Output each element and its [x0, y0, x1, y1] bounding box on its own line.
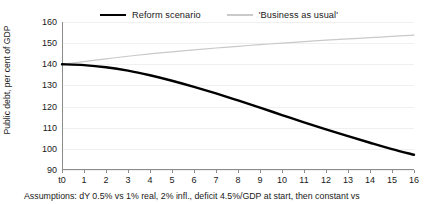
x-axis-tick-label: 14 — [365, 175, 375, 185]
y-axis-tick-label: 150 — [42, 38, 57, 48]
y-axis-title: Public debt, per cent of GDP — [2, 0, 16, 160]
x-axis-tick-label: 3 — [125, 175, 130, 185]
x-axis-tick-mark — [326, 170, 327, 173]
plot-area: 90100110120130140150160 t012345678910111… — [62, 22, 414, 170]
x-axis-tick-label: 9 — [257, 175, 262, 185]
y-axis-tick-label: 110 — [43, 123, 57, 133]
chart-footnote: Assumptions: dY 0.5% vs 1% real, 2% infl… — [24, 191, 360, 201]
series-line-business-as-usual — [62, 35, 414, 64]
x-axis-tick-mark — [348, 170, 349, 173]
legend-label-business-as-usual: 'Business as usual' — [259, 10, 338, 20]
x-axis-tick-label: t0 — [58, 175, 66, 185]
x-axis-tick-mark — [216, 170, 217, 173]
x-axis-tick-label: 11 — [299, 175, 308, 185]
x-axis-tick-mark — [194, 170, 195, 173]
legend-swatch-business-as-usual — [227, 14, 253, 15]
x-axis-tick-label: 1 — [81, 175, 86, 185]
x-axis-tick-label: 7 — [213, 175, 218, 185]
x-axis-tick-mark — [392, 170, 393, 173]
legend-item-business-as-usual: 'Business as usual' — [227, 10, 338, 20]
legend-swatch-reform-scenario — [100, 14, 126, 16]
x-axis-tick-mark — [414, 170, 415, 173]
y-axis-tick-label: 90 — [47, 165, 57, 175]
x-axis-tick-label: 12 — [321, 175, 331, 185]
x-axis-tick-label: 5 — [169, 175, 174, 185]
legend-item-reform-scenario: Reform scenario — [100, 10, 201, 20]
x-axis-tick-label: 2 — [103, 175, 108, 185]
series-layer — [62, 22, 414, 170]
x-axis-tick-mark — [128, 170, 129, 173]
series-line-reform-scenario — [62, 64, 414, 154]
x-axis-tick-label: 13 — [343, 175, 353, 185]
x-axis-tick-label: 4 — [147, 175, 152, 185]
chart-container: Reform scenario 'Business as usual' Publ… — [0, 0, 438, 204]
y-axis-tick-label: 100 — [42, 144, 57, 154]
x-axis-tick-mark — [370, 170, 371, 173]
y-axis-tick-label: 140 — [42, 59, 57, 69]
x-axis-tick-mark — [84, 170, 85, 173]
y-axis-tick-label: 130 — [42, 80, 57, 90]
x-axis-tick-mark — [150, 170, 151, 173]
x-axis-tick-label: 6 — [191, 175, 196, 185]
x-axis-tick-mark — [282, 170, 283, 173]
x-axis-tick-mark — [172, 170, 173, 173]
x-axis-tick-label: 10 — [277, 175, 287, 185]
y-axis-tick-label: 120 — [42, 102, 57, 112]
legend-label-reform-scenario: Reform scenario — [132, 10, 201, 20]
x-axis-tick-mark — [238, 170, 239, 173]
x-axis-tick-label: 16 — [409, 175, 419, 185]
x-axis-tick-mark — [260, 170, 261, 173]
x-axis-tick-mark — [62, 170, 63, 173]
x-axis-tick-label: 15 — [387, 175, 397, 185]
x-axis-tick-label: 8 — [235, 175, 240, 185]
x-axis-tick-mark — [106, 170, 107, 173]
x-axis-tick-mark — [304, 170, 305, 173]
y-axis-tick-label: 160 — [42, 17, 57, 27]
